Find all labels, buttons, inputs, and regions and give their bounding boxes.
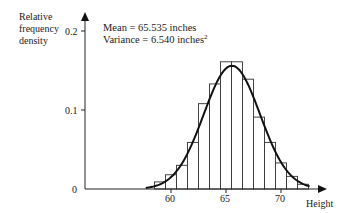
x-axis-label: Height [306,198,333,209]
x-tick-label: 65 [220,193,230,204]
histogram-bar [221,62,232,189]
variance-text: Variance = 6.540 inches2 [103,34,207,46]
y-axis-arrow-icon [81,12,89,21]
y-tick-label: 0.2 [65,26,78,37]
variance-value: Variance = 6.540 inches [103,34,204,45]
y-tick-label: 0.1 [65,105,78,116]
x-axis-arrow-icon [318,185,327,193]
histogram-bar [287,176,298,189]
histogram-bar [232,62,243,189]
histogram-bar [199,104,210,189]
histogram-bar [254,117,265,189]
mean-text: Mean = 65.535 inches [103,22,207,34]
y-tick-label: 0 [72,184,77,195]
y-axis-label-line: Relative [19,11,74,23]
histogram-bar [210,84,221,189]
variance-exponent: 2 [204,33,208,41]
x-tick-label: 70 [275,193,285,204]
x-tick-label: 60 [165,193,175,204]
statistics-annotation: Mean = 65.535 inches Variance = 6.540 in… [103,22,207,46]
